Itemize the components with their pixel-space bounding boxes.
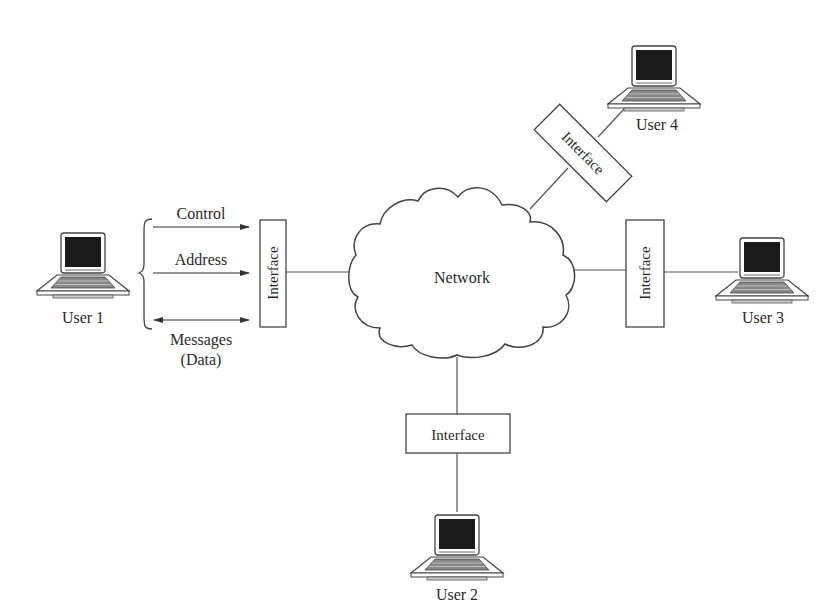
data-label: (Data)	[181, 351, 222, 369]
signal-brace	[139, 219, 152, 329]
interface-1[interactable]: Interface	[260, 220, 286, 327]
laptop-icon	[37, 233, 129, 298]
address-label: Address	[175, 251, 227, 268]
interface-2-label: Interface	[431, 427, 485, 443]
user-2[interactable]: User 2	[411, 515, 503, 603]
network-label: Network	[434, 269, 490, 286]
user-4-label: User 4	[636, 116, 678, 133]
user-1[interactable]: User 1	[37, 233, 129, 326]
laptop-icon	[411, 515, 503, 580]
interface-1-label: Interface	[265, 246, 281, 300]
network-cloud[interactable]: Network	[349, 188, 575, 358]
user-3[interactable]: User 3	[716, 238, 808, 326]
user-4[interactable]: User 4	[608, 46, 700, 133]
control-label: Control	[177, 205, 226, 222]
interface-4[interactable]: Interface	[534, 104, 632, 202]
signal-arrows	[153, 227, 249, 320]
laptop-icon	[608, 46, 700, 111]
user-3-label: User 3	[742, 309, 784, 326]
messages-label: Messages	[170, 331, 232, 349]
interface-2[interactable]: Interface	[406, 414, 510, 453]
interface-3[interactable]: Interface	[626, 220, 664, 327]
interface-3-label: Interface	[637, 246, 653, 300]
laptop-icon	[716, 238, 808, 303]
user-1-label: User 1	[62, 309, 104, 326]
network-diagram: Network Interface Interface Interface In…	[0, 0, 834, 610]
user-2-label: User 2	[436, 586, 478, 603]
